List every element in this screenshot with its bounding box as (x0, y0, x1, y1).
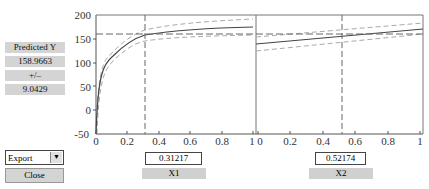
svg-text:0: 0 (257, 135, 263, 147)
svg-text:50: 50 (80, 81, 92, 93)
svg-text:150: 150 (75, 33, 92, 45)
x1-value-input[interactable]: 0.31217 (145, 152, 202, 165)
y-axis: 200 150 100 50 0 -50 (74, 9, 96, 140)
x2-factor-label: X2 (309, 168, 373, 179)
svg-text:0.6: 0.6 (348, 135, 362, 147)
panel-x1: 0 0.2 0.4 0.6 0.8 1 (93, 15, 256, 147)
dropdown-arrow-icon[interactable]: ▼ (50, 152, 62, 163)
svg-text:1: 1 (249, 135, 255, 147)
svg-text:100: 100 (75, 57, 92, 69)
x1-factor-label: X1 (142, 168, 206, 179)
panel-x2: 0 0.2 0.4 0.6 0.8 1 (256, 15, 423, 147)
svg-text:0: 0 (93, 135, 99, 147)
export-dropdown[interactable]: Export ▼ (5, 150, 64, 165)
svg-text:0.8: 0.8 (215, 135, 229, 147)
prediction-profiler-chart: 200 150 100 50 0 -50 0 0.2 0.4 0.6 0.8 1 (0, 0, 429, 150)
svg-text:0.8: 0.8 (381, 135, 395, 147)
svg-text:1: 1 (417, 135, 423, 147)
svg-text:0.2: 0.2 (283, 135, 297, 147)
svg-text:-50: -50 (74, 128, 89, 140)
svg-text:0.4: 0.4 (152, 135, 166, 147)
svg-text:200: 200 (75, 9, 92, 21)
svg-text:0: 0 (86, 104, 92, 116)
close-button[interactable]: Close (5, 168, 64, 183)
svg-text:0.6: 0.6 (183, 135, 197, 147)
x2-value-input[interactable]: 0.52174 (315, 152, 366, 165)
svg-text:0.4: 0.4 (316, 135, 330, 147)
svg-text:0.2: 0.2 (120, 135, 134, 147)
export-label: Export (8, 153, 33, 163)
